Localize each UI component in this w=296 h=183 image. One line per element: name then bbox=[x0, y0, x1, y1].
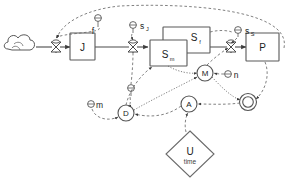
diamond-U-label: U bbox=[186, 146, 193, 157]
stock-P-label: P bbox=[259, 42, 266, 53]
link-P-to-O bbox=[256, 62, 267, 99]
param-n[interactable]: n bbox=[225, 70, 239, 80]
converter-D[interactable]: D bbox=[118, 105, 134, 121]
param-m-label: m bbox=[96, 100, 103, 110]
param-sS-label: s bbox=[245, 26, 249, 36]
stock-Sf-label: S bbox=[191, 32, 198, 43]
stock-J[interactable]: J bbox=[70, 33, 95, 60]
param-f[interactable]: f bbox=[92, 15, 102, 36]
stock-P[interactable]: P bbox=[246, 33, 279, 61]
converter-D-label: D bbox=[123, 109, 129, 118]
valve-inflow-J[interactable] bbox=[51, 40, 61, 53]
param-n-label: n bbox=[234, 70, 239, 80]
link-m-to-D bbox=[92, 109, 118, 119]
diamond-U[interactable]: U time bbox=[166, 131, 214, 177]
stock-J-label: J bbox=[80, 42, 85, 53]
valve-J-to-Sm[interactable] bbox=[128, 40, 138, 53]
link-Sm-to-M bbox=[168, 66, 197, 73]
cloud-source bbox=[4, 35, 34, 50]
stock-Sm-sublabel: m bbox=[170, 56, 175, 62]
stock-Sm[interactable]: S m bbox=[150, 40, 187, 66]
converter-O[interactable] bbox=[240, 94, 257, 111]
param-m[interactable]: m bbox=[88, 100, 103, 110]
stock-flow-diagram: S f S m J P f s J s S n bbox=[0, 0, 296, 183]
link-valve2-down bbox=[131, 53, 133, 84]
link-sJ-to-valve2 bbox=[132, 34, 133, 40]
stock-Sm-label: S bbox=[162, 49, 169, 60]
diamond-U-sublabel: time bbox=[184, 158, 197, 165]
link-M-to-O bbox=[212, 77, 240, 100]
link-Sf-feedback bbox=[210, 31, 232, 33]
param-sS[interactable]: s S bbox=[235, 26, 255, 38]
link-O-to-A bbox=[198, 103, 240, 104]
converter-M-label: M bbox=[202, 69, 209, 78]
converter-A[interactable]: A bbox=[181, 96, 197, 112]
influence-links bbox=[56, 5, 284, 132]
converter-M[interactable]: M bbox=[197, 65, 213, 81]
valve-Sm-to-P[interactable] bbox=[226, 40, 236, 53]
diagram-canvas: S f S m J P f s J s S n bbox=[0, 0, 296, 183]
param-sJ-sublabel: J bbox=[146, 26, 149, 32]
converter-A-label: A bbox=[186, 100, 192, 109]
param-sJ[interactable]: s J bbox=[130, 21, 150, 34]
link-U-to-A bbox=[185, 113, 188, 132]
param-sJ-label: s bbox=[140, 21, 144, 31]
param-T[interactable] bbox=[128, 85, 135, 96]
link-A-to-D bbox=[135, 106, 181, 116]
param-sS-sublabel: S bbox=[251, 31, 255, 37]
link-n-to-M bbox=[214, 73, 224, 74]
